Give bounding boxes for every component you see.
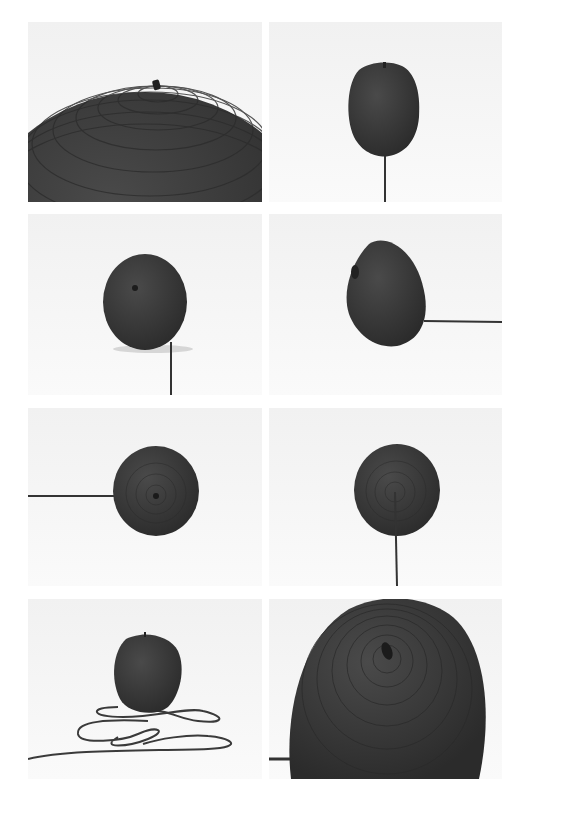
photo-side-view [269,214,502,395]
photo-wall-left-cord [28,408,262,586]
photo-closeup-top [28,22,262,202]
photo-front-view [269,22,502,202]
photo-tilted-view [28,214,262,395]
photo-closeup-coil [269,599,502,779]
photo-wall-down-cord [269,408,502,586]
photo-with-loops [28,599,262,779]
